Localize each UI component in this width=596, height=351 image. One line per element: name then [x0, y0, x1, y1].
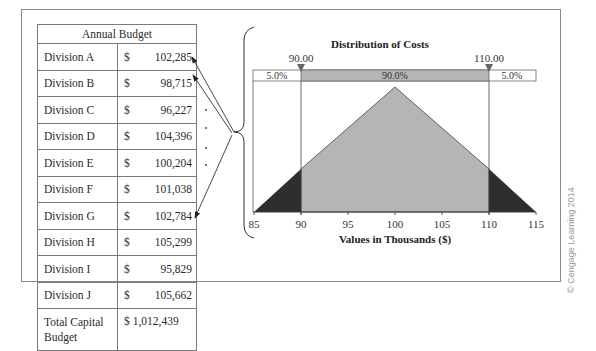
svg-text:5.0%: 5.0% — [267, 70, 288, 81]
svg-text:110: 110 — [481, 218, 498, 230]
chart-title: Distribution of Costs — [331, 38, 430, 50]
distribution-middle — [301, 87, 489, 212]
svg-text:115: 115 — [528, 218, 545, 230]
left-marker-label: 90.00 — [289, 52, 314, 64]
svg-text:95: 95 — [343, 218, 355, 230]
svg-text:5.0%: 5.0% — [502, 70, 523, 81]
distribution-left-tail — [254, 169, 301, 212]
svg-text:90: 90 — [296, 218, 308, 230]
x-tick-labels: 859095100105110115 — [249, 218, 545, 230]
svg-text:100: 100 — [387, 218, 404, 230]
curly-brace — [234, 27, 254, 238]
svg-text:90.0%: 90.0% — [382, 70, 408, 81]
distribution-right-tail — [489, 169, 536, 212]
ellipsis-dots — [205, 109, 207, 166]
svg-text:85: 85 — [249, 218, 261, 230]
x-axis-label: Values in Thousands ($) — [339, 233, 452, 246]
total-label: Total Capital Budget — [38, 309, 118, 351]
right-marker-label: 110.00 — [474, 52, 504, 64]
total-amount: $ 1,012,439 — [118, 309, 197, 351]
copyright-credit: © Cengage Learning 2014 — [566, 187, 576, 293]
svg-text:105: 105 — [434, 218, 451, 230]
arrows — [192, 57, 234, 218]
